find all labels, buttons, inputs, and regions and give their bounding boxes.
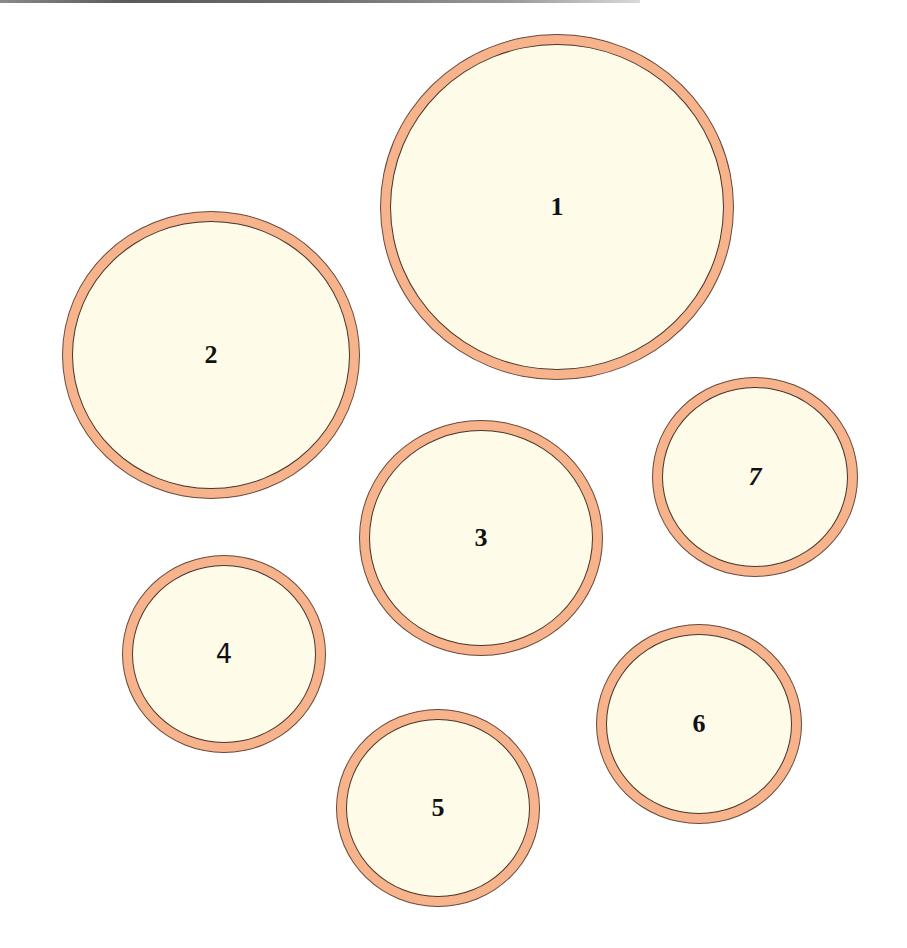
circle-5-fill: 5 [346, 719, 530, 897]
circle-7-label: 7 [749, 464, 762, 490]
circle-2: 2 [62, 211, 360, 499]
circle-4-fill: 4 [132, 565, 316, 743]
circle-7-fill: 7 [662, 387, 848, 567]
circle-7: 7 [652, 377, 858, 577]
circle-2-label: 2 [205, 342, 218, 368]
circle-1: 1 [380, 34, 734, 380]
circle-6-fill: 6 [606, 634, 792, 814]
circle-3: 3 [359, 420, 603, 656]
circle-1-fill: 1 [390, 44, 724, 370]
circle-6: 6 [596, 624, 802, 824]
circle-1-label: 1 [551, 194, 564, 220]
circle-5: 5 [336, 709, 540, 907]
top-edge-bar [0, 0, 640, 3]
circle-6-label: 6 [693, 711, 706, 737]
circle-4: 4 [122, 555, 326, 753]
circle-5-label: 5 [432, 795, 445, 821]
circle-4-label: 4 [216, 641, 233, 667]
circle-2-fill: 2 [72, 221, 350, 489]
circle-3-label: 3 [475, 525, 488, 551]
circle-3-fill: 3 [369, 430, 593, 646]
